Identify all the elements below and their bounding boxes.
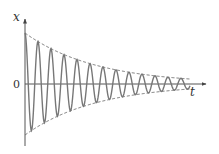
x-axis-label: t [190, 85, 195, 99]
damped-curve [25, 33, 190, 131]
origin-label: 0 [13, 78, 20, 91]
y-axis-label: x [13, 10, 20, 24]
damped-oscillation-diagram: x 0 t [0, 0, 219, 154]
